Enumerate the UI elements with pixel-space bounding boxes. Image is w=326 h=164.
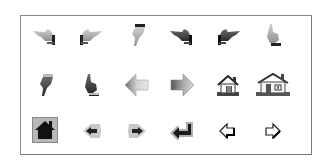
home-button-icon[interactable] [32,117,58,143]
arrow-left-small-icon[interactable] [77,117,107,145]
house-small-icon[interactable] [213,71,243,99]
arrow-right-small-icon[interactable] [122,117,152,145]
hand-pointing-right-dark-icon[interactable] [213,21,243,49]
hand-pointing-left-icon[interactable] [30,21,60,49]
house-large-icon[interactable] [255,70,291,98]
hand-pointing-up-icon[interactable] [257,21,287,49]
hand-pointing-up-dark-icon[interactable] [75,71,105,99]
arrow-right-outline-icon[interactable] [257,117,287,145]
hand-pointing-down-dark-icon[interactable] [30,71,60,99]
hand-pointing-down-icon[interactable] [122,21,152,49]
hand-pointing-right-icon[interactable] [75,21,105,49]
hand-pointing-left-dark-icon[interactable] [167,21,197,49]
arrow-left-outline-icon[interactable] [213,117,243,145]
arrow-right-gradient-icon[interactable] [167,71,197,99]
arrow-left-gradient-icon[interactable] [122,71,152,99]
return-arrow-icon[interactable] [167,117,197,145]
